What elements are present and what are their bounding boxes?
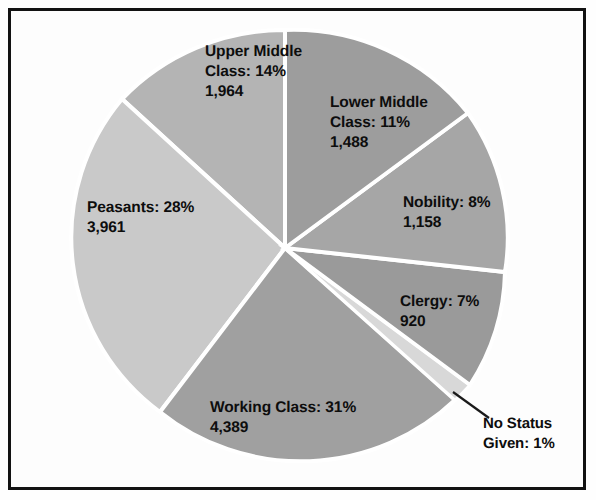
slice-label-lower-middle-class: Lower Middle Class: 11% 1,488 [330,93,428,153]
slice-label-nobility: Nobility: 8% 1,158 [403,193,491,233]
pie-chart-figure: Upper Middle Class: 14% 1,964 Lower Midd… [0,0,596,500]
slice-label-working-class: Working Class: 31% 4,389 [210,398,356,438]
slice-label-no-status-given: No Status Given: 1% [483,414,555,453]
slice-label-peasants: Peasants: 28% 3,961 [87,198,194,238]
slice-label-upper-middle-class: Upper Middle Class: 14% 1,964 [205,42,302,102]
slice-label-clergy: Clergy: 7% 920 [400,292,479,332]
